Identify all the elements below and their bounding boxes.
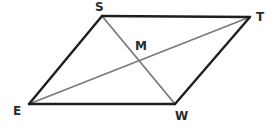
diagonal-sw <box>102 16 175 104</box>
parallelogram-diagram: S T E W M <box>0 0 280 130</box>
vertex-label-w: W <box>175 109 188 123</box>
vertex-label-s: S <box>95 0 104 14</box>
vertex-label-e: E <box>13 104 21 118</box>
edge-st <box>102 16 250 17</box>
edge-tw <box>175 17 250 104</box>
intersection-label-m: M <box>135 39 147 53</box>
vertex-label-t: T <box>256 10 265 24</box>
edge-es <box>29 16 102 104</box>
